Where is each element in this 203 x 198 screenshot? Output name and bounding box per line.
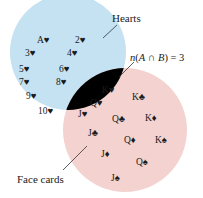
card-label: Q♦ — [124, 135, 136, 145]
card-label: 3♥ — [25, 48, 36, 58]
card-label: J♣ — [88, 128, 98, 138]
card-label: J♥ — [78, 109, 88, 119]
card-label: Q♣ — [112, 114, 125, 124]
card-label: J♦ — [101, 149, 110, 159]
venn-diagram: Hearts Face cards n(A ∩ B) = 3 A♥ 2♥ 3♥ … — [0, 0, 203, 198]
card-label: 6♥ — [59, 64, 70, 74]
card-label: K♥ — [102, 85, 115, 95]
card-label: 9♥ — [26, 91, 37, 101]
intersection-count-annotation: n(A ∩ B) = 3 — [130, 52, 184, 64]
card-label: K♦ — [145, 113, 157, 123]
card-label: K♣ — [132, 92, 145, 102]
card-label: 8♥ — [56, 77, 67, 87]
card-label: K♠ — [155, 135, 167, 145]
card-label: J♠ — [111, 173, 120, 183]
face-cards-label: Face cards — [17, 173, 64, 185]
card-label: 10♥ — [38, 106, 54, 116]
card-label: 2♥ — [75, 35, 86, 45]
hearts-label: Hearts — [112, 12, 141, 24]
card-label: 4♥ — [67, 48, 78, 58]
card-label: Q♠ — [136, 157, 148, 167]
card-label: 5♥ — [19, 64, 30, 74]
card-label: 7♥ — [19, 77, 30, 87]
card-label: A♥ — [37, 35, 50, 45]
card-label: Q♥ — [90, 98, 103, 108]
